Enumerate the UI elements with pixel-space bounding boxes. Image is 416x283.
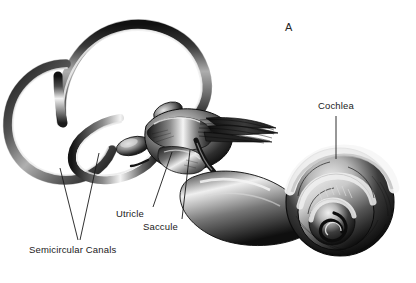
label-cochlea: Cochlea xyxy=(318,100,354,111)
inner-ear-figure: A Cochlea Utricle Saccule Semicircular C… xyxy=(0,0,416,283)
label-saccule: Saccule xyxy=(143,221,178,232)
label-utricle: Utricle xyxy=(116,208,144,219)
common-crus xyxy=(58,76,63,123)
label-semicircular-canals: Semicircular Canals xyxy=(29,244,116,255)
anatomical-illustration xyxy=(0,0,416,283)
panel-label-a: A xyxy=(285,21,292,33)
